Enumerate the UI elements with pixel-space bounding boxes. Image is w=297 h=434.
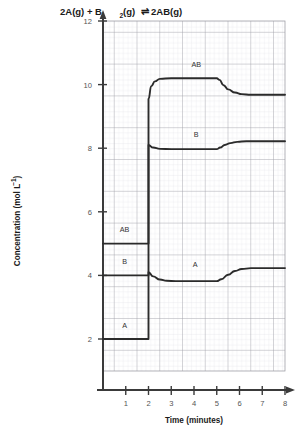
x-tick-8: 8 <box>283 399 287 408</box>
title-part-b: (g) <box>123 6 135 17</box>
x-axis-title: Time (minutes) <box>165 416 223 425</box>
y-tick-8: 8 <box>88 144 92 153</box>
annotation-A-initial: A <box>122 321 127 330</box>
y-tick-12: 12 <box>84 17 92 26</box>
x-tick-6: 6 <box>237 399 241 408</box>
y-tick-10: 10 <box>84 81 92 90</box>
x-tick-2: 2 <box>146 399 150 408</box>
y-tick-2: 2 <box>88 335 92 344</box>
equilibrium-concentration-chart: 2 4 6 8 10 12 1 2 3 4 5 6 7 8 2A(g) + B … <box>0 0 297 434</box>
annotation-AB-initial: AB <box>120 225 130 234</box>
x-tick-3: 3 <box>169 399 173 408</box>
curve-label-A: A <box>193 260 198 269</box>
x-tick-1: 1 <box>124 399 128 408</box>
title-part-c: 2AB(g) <box>151 6 182 17</box>
y-axis-title-text: Concentration (mol L <box>13 184 22 266</box>
y-tick-6: 6 <box>88 208 92 217</box>
x-tick-4: 4 <box>192 399 196 408</box>
x-tick-7: 7 <box>260 399 264 408</box>
chart-svg: 2 4 6 8 10 12 1 2 3 4 5 6 7 8 2A(g) + B … <box>0 0 297 434</box>
plot-grid <box>103 21 285 371</box>
annotation-B-initial: B <box>122 257 127 266</box>
equilibrium-arrow-icon: ⇌ <box>141 6 150 17</box>
curve-label-B: B <box>194 130 199 139</box>
curve-label-AB: AB <box>191 60 201 69</box>
x-tick-5: 5 <box>215 399 219 408</box>
title-part-a: 2A(g) + B <box>60 6 102 17</box>
y-tick-4: 4 <box>88 271 92 280</box>
y-axis-title-tail: ) <box>13 175 22 178</box>
